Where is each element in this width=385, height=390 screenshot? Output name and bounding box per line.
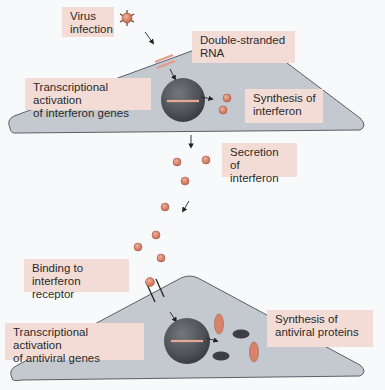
interferon-dot-icon — [181, 177, 189, 185]
interferon-dot-icon — [152, 231, 160, 239]
interferon-dot-icon — [161, 203, 169, 211]
label-synthesis-of-antiviral-proteins: Synthesis of antiviral proteins — [267, 310, 373, 347]
label-transcriptional-activation-interferon: Transcriptional activation of interferon… — [25, 78, 151, 110]
nucleus-top — [161, 78, 205, 122]
virus-icon — [120, 10, 134, 26]
label-double-stranded-rna: Double-stranded RNA — [192, 31, 295, 63]
infection-arrow — [145, 32, 153, 43]
interferon-dot-icon — [223, 94, 231, 102]
label-virus-infection: Virus infection — [62, 7, 114, 37]
label-binding-to-receptor: Binding to interferon receptor — [24, 259, 129, 292]
interferon-dot-icon — [202, 156, 210, 164]
interferon-dot-icon — [134, 243, 142, 251]
interferon-dot-icon — [173, 158, 181, 166]
label-transcriptional-activation-antiviral: Transcriptional activation of antiviral … — [5, 323, 144, 360]
antiviral-protein-icon — [215, 314, 224, 334]
antiviral-protein-icon — [233, 330, 250, 339]
nucleus-bottom — [164, 318, 210, 364]
bound-interferon-dot-icon — [146, 278, 155, 287]
interferon-dot-icon — [219, 106, 227, 114]
diffusion-arrow — [183, 201, 189, 211]
interferon-diagram: Virus infection Double-stranded RNA Tran… — [0, 0, 385, 390]
label-synthesis-of-interferon: Synthesis of interferon — [245, 89, 323, 123]
interferon-dot-icon — [157, 254, 165, 262]
antiviral-protein-icon — [250, 342, 259, 362]
antiviral-protein-icon — [213, 352, 230, 361]
label-secretion-of-interferon: Secretion of interferon — [222, 143, 297, 177]
